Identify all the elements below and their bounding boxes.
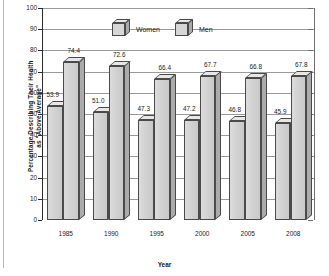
bar-value-label: 47.2 [177,105,201,112]
bar-value-label: 72.6 [107,51,131,58]
bar-front-face [245,78,261,220]
bar-men-1985 [63,62,79,220]
y-axis-tick-right [308,8,313,9]
bar-women-1995 [138,120,154,220]
bar-front-face [291,76,307,220]
bar-value-label: 47.3 [132,105,156,112]
bar-value-label: 45.9 [268,108,292,115]
x-axis-label: Year [0,261,329,268]
bar-men-1990 [109,66,125,220]
y-axis-tick-label: 50 [11,110,37,117]
x-axis-tick-label: 2000 [185,230,219,237]
bar-front-face [200,76,216,220]
y-axis-tick-label: 20 [11,174,37,181]
x-axis-tick-label: 1990 [94,230,128,237]
bar-value-label: 51.0 [86,97,110,104]
bar-women-2008 [275,123,291,220]
bar-value-label: 66.4 [153,64,177,71]
bar-side-face [306,71,312,220]
legend-cube-men-icon [175,23,188,36]
bar-value-label: 74.4 [62,47,86,54]
y-axis-tick-label: 30 [11,152,37,159]
x-axis-tick-label: 2005 [231,230,265,237]
y-axis-tick-label: 70 [11,68,37,75]
bar-side-face [79,57,85,220]
bar-front-face [63,62,79,220]
bar-front-face [47,106,63,220]
y-axis-tick-label: 100 [11,4,37,11]
y-axis-tick-right [308,50,313,51]
bar-women-1985 [47,106,63,220]
y-axis-tick-label: 60 [11,89,37,96]
bar-front-face [93,112,109,220]
bar-women-1990 [93,112,109,220]
bar-side-face [215,71,221,220]
bar-front-face [109,66,125,220]
y-axis-tick-right [308,29,313,30]
bar-front-face [138,120,154,220]
bar-men-2005 [245,78,261,220]
y-axis-tick [38,220,42,221]
bar-side-face [170,74,176,220]
bar-front-face [184,120,200,220]
y-axis-tick-right [308,220,313,221]
bar-front-face [229,121,245,220]
legend-cube-women-icon [112,23,125,36]
y-axis-line [42,8,43,220]
bar-value-label: 53.9 [41,91,65,98]
x-axis-tick-label: 1985 [49,230,83,237]
x-axis-tick-label: 1995 [140,230,174,237]
bar-value-label: 46.8 [223,106,247,113]
y-axis-tick-label: 40 [11,131,37,138]
bar-value-label: 66.8 [244,63,268,70]
y-axis-line-right [314,8,315,220]
bar-front-face [275,123,291,220]
bar-value-label: 67.7 [198,61,222,68]
x-axis-tick-label: 2008 [276,230,310,237]
chart-figure: Percentage Describing Their Health as "A… [0,0,329,276]
bar-women-2005 [229,121,245,220]
legend-label-women: Women [136,26,160,33]
bar-side-face [261,73,267,220]
legend-label-men: Men [199,26,213,33]
bar-men-1995 [154,79,170,220]
bar-women-2000 [184,120,200,220]
y-axis-tick-label: 90 [11,25,37,32]
bar-value-label: 67.8 [289,61,313,68]
bar-men-2000 [200,76,216,220]
plot-area: 0102030405060708090100 53.974.451.072.64… [42,8,315,220]
y-axis-tick-label: 10 [11,195,37,202]
bar-front-face [154,79,170,220]
bar-men-2008 [291,76,307,220]
bar-side-face [124,61,130,220]
figure-left-border [3,0,4,268]
gridline [42,8,315,9]
y-axis-tick-label: 0 [11,216,37,223]
y-axis-tick-label: 80 [11,46,37,53]
